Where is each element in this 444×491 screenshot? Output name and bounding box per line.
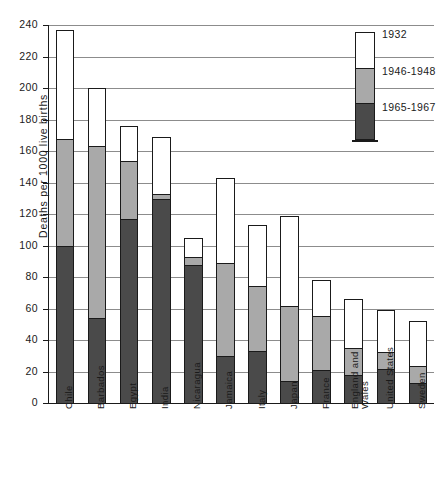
y-tick-label-60: 60 — [8, 302, 38, 314]
bar-slot-nicaragua — [177, 25, 209, 403]
x-label-slot: Jamaica — [208, 405, 240, 491]
bar-segment-1946-1948 — [185, 257, 202, 265]
bar-slot-egypt — [113, 25, 145, 403]
bar-slot-barbados — [81, 25, 113, 403]
bar-segment-1965-1967 — [121, 219, 138, 403]
x-tick-label-chile: Chile — [64, 385, 74, 409]
bar-segment-1946-1948 — [281, 306, 298, 381]
bar-segment-1965-1967 — [57, 246, 74, 403]
bar-segment-1946-1948 — [313, 316, 330, 371]
legend-label-1946-1948: 1946-1948 — [382, 65, 436, 77]
legend-bar-base — [352, 140, 378, 142]
x-tick-label-india: India — [160, 386, 170, 409]
y-tick-label-0: 0 — [8, 396, 38, 408]
legend-swatch-1946-1948 — [356, 68, 374, 103]
y-tick-label-40: 40 — [8, 333, 38, 345]
bar-segment-1946-1948 — [249, 286, 266, 352]
bar-slot-jamaica — [209, 25, 241, 403]
x-label-slot: England and Wales — [337, 405, 369, 491]
bar-segment-1946-1948 — [57, 139, 74, 246]
y-tick-label-140: 140 — [8, 176, 38, 188]
bar-segment-1946-1948 — [89, 146, 106, 319]
x-label-slot: India — [144, 405, 176, 491]
bar-segment-1946-1948 — [217, 263, 234, 356]
bar-segment-1932 — [217, 179, 234, 264]
y-tick-label-80: 80 — [8, 270, 38, 282]
x-label-slot: United States — [369, 405, 401, 491]
legend-label-1932: 1932 — [382, 28, 407, 40]
bar-egypt[interactable] — [120, 126, 139, 403]
x-tick-label-nicaragua: Nicaragua — [192, 362, 202, 409]
x-label-slot: Japan — [273, 405, 305, 491]
legend-swatch-1932 — [356, 33, 374, 68]
bar-segment-1932 — [281, 217, 298, 306]
x-tick-label-italy: Italy — [257, 390, 267, 409]
bar-segment-1932 — [121, 127, 138, 162]
x-tick-label-france: France — [321, 377, 331, 409]
y-tick-label-240: 240 — [8, 18, 38, 30]
bar-slot-japan — [274, 25, 306, 403]
bar-slot-india — [145, 25, 177, 403]
x-tick-label-sweden: Sweden — [417, 372, 427, 409]
bar-segment-1932 — [313, 281, 330, 315]
x-label-slot: Egypt — [112, 405, 144, 491]
bar-segment-1946-1948 — [121, 161, 138, 219]
x-label-slot: Sweden — [401, 405, 433, 491]
x-tick-label-egypt: Egypt — [128, 383, 138, 409]
bar-india[interactable] — [152, 137, 171, 403]
bar-japan[interactable] — [280, 216, 299, 403]
bar-segment-1932 — [89, 89, 106, 146]
bar-italy[interactable] — [248, 225, 267, 403]
x-tick-label-jamaica: Jamaica — [224, 371, 234, 409]
infant-mortality-bar-chart: Deaths per 1000 live births 240220200180… — [0, 0, 444, 491]
y-tick-label-180: 180 — [8, 113, 38, 125]
legend-sample-bar — [355, 32, 375, 140]
x-label-slot: Nicaragua — [176, 405, 208, 491]
bar-segment-1932 — [249, 226, 266, 286]
bar-slot-italy — [241, 25, 273, 403]
bar-slot-france — [306, 25, 338, 403]
y-tick-label-220: 220 — [8, 50, 38, 62]
x-tick-label-barbados: Barbados — [96, 365, 106, 409]
x-axis-tick-labels: ChileBarbadosEgyptIndiaNicaraguaJamaicaI… — [48, 405, 433, 491]
x-label-slot: Italy — [240, 405, 272, 491]
bar-segment-1932 — [410, 322, 427, 366]
bar-barbados[interactable] — [88, 88, 107, 403]
y-axis-tick-labels: 240220200180160140120100806040200 — [8, 0, 38, 491]
x-label-slot: France — [305, 405, 337, 491]
bar-jamaica[interactable] — [216, 178, 235, 403]
bar-segment-1932 — [185, 239, 202, 258]
y-tick-label-200: 200 — [8, 81, 38, 93]
x-label-slot: Chile — [48, 405, 80, 491]
bar-segment-1932 — [57, 31, 74, 139]
x-tick-label-united-states: United States — [385, 347, 395, 409]
y-tick-label-20: 20 — [8, 365, 38, 377]
legend-swatch-1965-1967 — [356, 103, 374, 139]
legend: 1932 1946-1948 1965-1967 — [355, 28, 441, 150]
x-tick-label-england-and-wales: England and Wales — [350, 331, 370, 409]
bar-segment-1965-1967 — [153, 199, 170, 403]
bar-segment-1932 — [153, 138, 170, 194]
x-tick-label-japan: Japan — [289, 381, 299, 409]
bar-slot-chile — [49, 25, 81, 403]
bar-chile[interactable] — [56, 30, 75, 403]
legend-label-1965-1967: 1965-1967 — [382, 101, 436, 113]
y-tick-label-120: 120 — [8, 207, 38, 219]
bar-segment-1932 — [378, 311, 395, 352]
x-label-slot: Barbados — [80, 405, 112, 491]
y-tick-label-160: 160 — [8, 144, 38, 156]
y-tick-label-100: 100 — [8, 239, 38, 251]
